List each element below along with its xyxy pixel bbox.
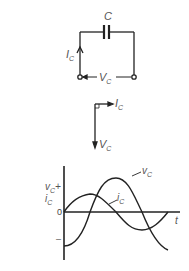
circuit-current-label: IC <box>66 48 75 62</box>
phasor-voltage-label: VC <box>99 138 112 152</box>
y-label-i: iC <box>45 193 53 206</box>
curve-ic-label: iC <box>117 192 125 205</box>
terminal-right <box>132 75 136 79</box>
curve-vc-label: vC <box>142 165 153 178</box>
terminal-left <box>78 75 82 79</box>
zero-label: 0 <box>57 207 62 217</box>
x-label-t: t <box>175 215 179 226</box>
phasor-current-arrow-icon <box>108 102 113 106</box>
waveform-plot <box>64 166 180 260</box>
y-label-v: vC+ <box>45 181 61 194</box>
minus-label: – <box>56 234 61 244</box>
phasor-current-label: IC <box>115 97 124 111</box>
phasor-voltage-arrow-icon <box>93 142 97 148</box>
capacitor-label: C <box>104 10 112 22</box>
diagram-canvas: C IC VC IC VC vC iC vC+ iC 0 – t <box>0 0 189 271</box>
capacitor-circuit <box>77 25 136 79</box>
voltage-arrow-icon <box>83 75 87 79</box>
vc-leader <box>132 172 141 176</box>
circuit-voltage-label: VC <box>99 71 112 85</box>
curve-vc <box>64 178 168 250</box>
ic-leader <box>109 200 117 204</box>
